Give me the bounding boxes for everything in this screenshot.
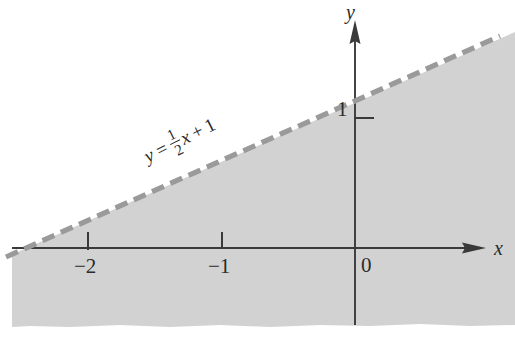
coordinate-plane-svg bbox=[0, 0, 515, 350]
graph-figure: x y −2 −1 0 1 y =12x+1 bbox=[0, 0, 515, 350]
origin-label: 0 bbox=[361, 255, 372, 276]
x-axis-label: x bbox=[494, 238, 503, 258]
shaded-region bbox=[12, 32, 515, 327]
y-axis-label: y bbox=[346, 2, 355, 22]
x-tick-label-minus-2: −2 bbox=[74, 256, 96, 277]
x-tick-label-minus-1: −1 bbox=[208, 256, 230, 277]
y-tick-label-1: 1 bbox=[337, 99, 348, 120]
y-axis-arrowhead bbox=[350, 20, 361, 44]
